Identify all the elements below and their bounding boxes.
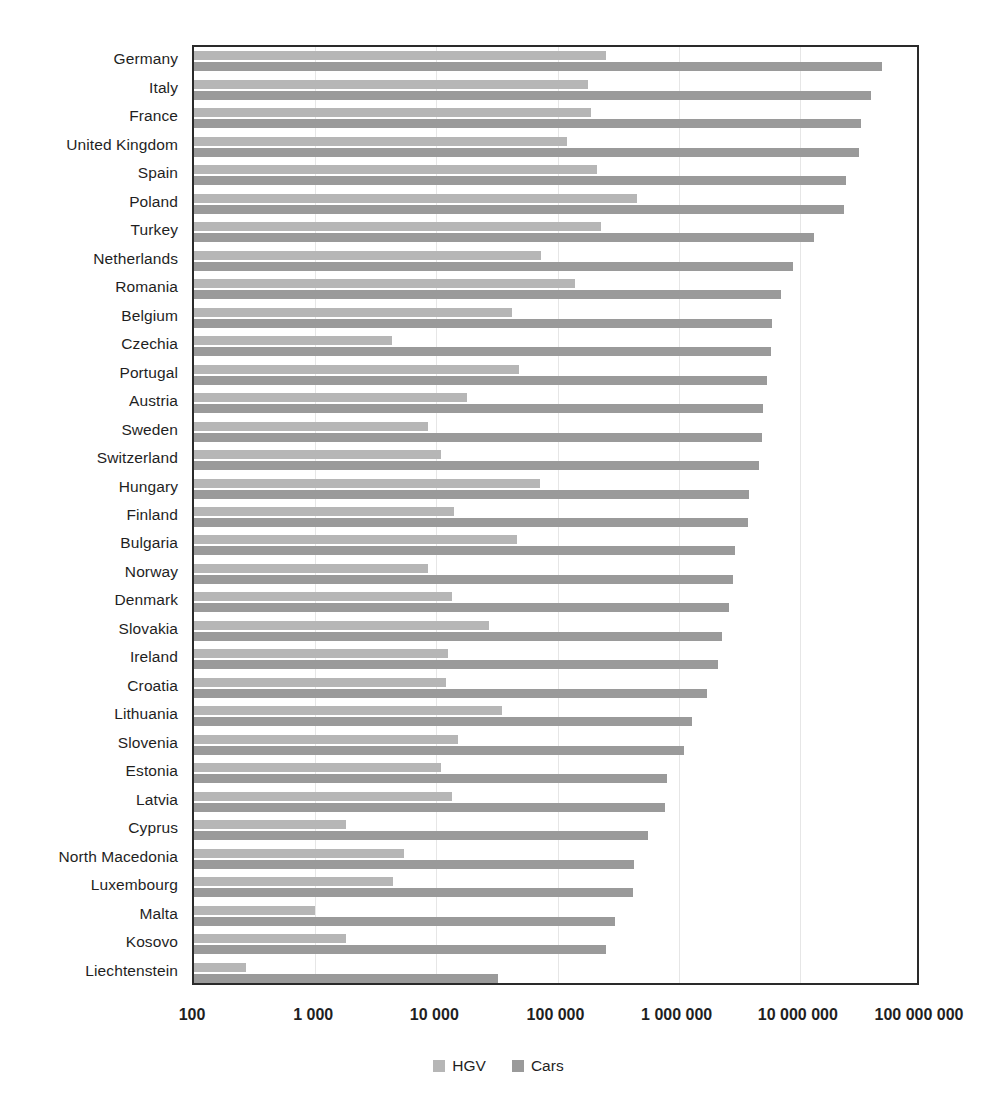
value-axis-tick: 10 000 000	[758, 1006, 838, 1024]
bar-cars	[194, 461, 759, 470]
category-label: Turkey	[131, 222, 178, 238]
category-axis: GermanyItalyFranceUnited KingdomSpainPol…	[0, 45, 186, 985]
bar-hgv	[194, 108, 591, 117]
category-label: Finland	[126, 507, 178, 523]
bar-group	[194, 251, 917, 279]
bar-hgv	[194, 649, 448, 658]
category-label: Latvia	[136, 792, 178, 808]
bar-hgv	[194, 877, 393, 886]
bar-hgv	[194, 251, 541, 260]
bar-group	[194, 507, 917, 535]
bar-hgv	[194, 820, 346, 829]
bar-group	[194, 165, 917, 193]
category-label: Luxembourg	[91, 877, 178, 893]
legend-item[interactable]: Cars	[512, 1058, 564, 1074]
bar-cars	[194, 233, 814, 242]
bar-cars	[194, 717, 692, 726]
category-label: Bulgaria	[120, 535, 178, 551]
category-label: France	[129, 108, 178, 124]
category-label: Croatia	[127, 678, 178, 694]
category-label: Portugal	[119, 365, 178, 381]
bar-cars	[194, 119, 861, 128]
bar-hgv	[194, 51, 606, 60]
bar-group	[194, 877, 917, 905]
bar-cars	[194, 660, 718, 669]
bar-group	[194, 137, 917, 165]
bar-cars	[194, 518, 748, 527]
category-label: Malta	[140, 906, 178, 922]
category-label: Spain	[138, 165, 178, 181]
bar-hgv	[194, 535, 517, 544]
bar-cars	[194, 917, 615, 926]
bar-group	[194, 792, 917, 820]
value-axis-tick: 1 000 000	[641, 1006, 712, 1024]
category-label: Netherlands	[93, 251, 178, 267]
bar-hgv	[194, 735, 458, 744]
legend-item[interactable]: HGV	[433, 1058, 486, 1074]
bar-hgv	[194, 621, 489, 630]
bar-cars	[194, 404, 763, 413]
vehicle-fleet-bar-chart: GermanyItalyFranceUnited KingdomSpainPol…	[0, 0, 997, 1108]
category-label: Italy	[149, 80, 178, 96]
bar-group	[194, 906, 917, 934]
value-axis-tick: 100 000	[527, 1006, 585, 1024]
bar-hgv	[194, 706, 502, 715]
bar-hgv	[194, 393, 467, 402]
category-label: Romania	[115, 279, 178, 295]
category-label: Lithuania	[114, 706, 178, 722]
bar-group	[194, 279, 917, 307]
category-label: Sweden	[121, 422, 178, 438]
legend-label: HGV	[452, 1058, 486, 1074]
bar-hgv	[194, 963, 246, 972]
bar-group	[194, 51, 917, 79]
bar-group	[194, 735, 917, 763]
bar-group	[194, 479, 917, 507]
bar-cars	[194, 176, 846, 185]
bar-group	[194, 820, 917, 848]
bar-hgv	[194, 222, 601, 231]
bar-cars	[194, 888, 633, 897]
bar-group	[194, 592, 917, 620]
bar-hgv	[194, 934, 346, 943]
category-label: Ireland	[130, 649, 178, 665]
bar-group	[194, 678, 917, 706]
bar-cars	[194, 376, 767, 385]
bar-hgv	[194, 308, 512, 317]
bar-cars	[194, 290, 781, 299]
bar-hgv	[194, 792, 452, 801]
bar-hgv	[194, 165, 597, 174]
bar-group	[194, 564, 917, 592]
bar-hgv	[194, 137, 567, 146]
bar-hgv	[194, 194, 637, 203]
bar-group	[194, 422, 917, 450]
category-label: Kosovo	[126, 934, 178, 950]
category-label: Poland	[129, 194, 178, 210]
bar-group	[194, 108, 917, 136]
bar-cars	[194, 603, 729, 612]
bar-hgv	[194, 849, 404, 858]
bar-group	[194, 308, 917, 336]
bar-group	[194, 365, 917, 393]
bar-hgv	[194, 422, 428, 431]
category-label: Germany	[114, 51, 178, 67]
value-axis-tick: 100 000 000	[875, 1006, 964, 1024]
bar-group	[194, 222, 917, 250]
bar-group	[194, 393, 917, 421]
bar-cars	[194, 91, 871, 100]
value-axis-tick: 1 000	[293, 1006, 333, 1024]
category-label: Norway	[125, 564, 178, 580]
bar-cars	[194, 774, 667, 783]
category-label: Slovakia	[119, 621, 178, 637]
bar-group	[194, 934, 917, 962]
bar-cars	[194, 632, 722, 641]
category-label: Cyprus	[128, 820, 178, 836]
bar-group	[194, 706, 917, 734]
value-axis-tick: 100	[179, 1006, 206, 1024]
bar-cars	[194, 831, 648, 840]
category-label: Estonia	[126, 763, 178, 779]
bar-group	[194, 621, 917, 649]
bar-hgv	[194, 678, 446, 687]
category-label: Hungary	[119, 479, 178, 495]
bar-group	[194, 649, 917, 677]
bar-cars	[194, 974, 498, 983]
